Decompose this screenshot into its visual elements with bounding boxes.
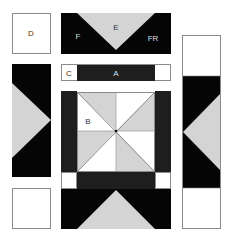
piece-left-side-strip	[12, 64, 51, 177]
piece-a-label: A	[113, 69, 119, 78]
piece-top-flying-geese: E F FR	[61, 13, 171, 54]
pinwheel-b: B	[77, 92, 155, 172]
piece-strip-c-a: C A	[62, 65, 171, 82]
piece-center-block: B	[61, 91, 171, 189]
piece-bottom-flying-geese	[61, 189, 171, 229]
piece-d-label: D	[28, 29, 34, 38]
quilt-pattern-diagram: D E F FR C A	[0, 0, 225, 240]
piece-d: D	[13, 14, 51, 54]
piece-right-side-strip	[183, 36, 221, 229]
piece-fr-label: FR	[148, 34, 159, 43]
piece-f-label: F	[76, 32, 81, 41]
piece-c-label: C	[66, 69, 72, 78]
piece-bottom-left-square	[13, 189, 51, 229]
piece-b-label: B	[85, 117, 90, 126]
piece-e-label: E	[113, 23, 118, 32]
